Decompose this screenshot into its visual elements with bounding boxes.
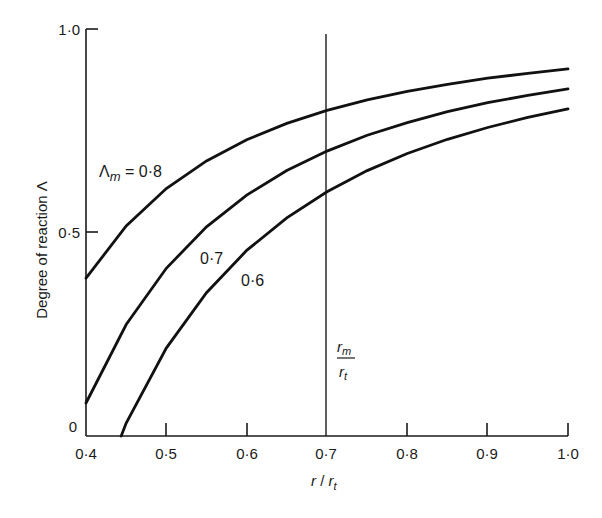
reference-label: rm rt	[337, 338, 355, 382]
y-tick-label-0-5: 0·5	[58, 224, 80, 241]
x-axis-label: r / rt	[311, 472, 338, 492]
curve-label-0-6: 0·6	[241, 272, 264, 289]
reaction-chart: 1·0 0·5 0 0·4 0·5 0·6 0·7 0·8 0·9 1·0 r …	[0, 0, 602, 518]
y-tick-label-1-0: 1·0	[58, 21, 80, 38]
x-tick-label-0-5: 0·5	[155, 445, 177, 462]
x-label-slash: /	[316, 472, 329, 489]
curve-lambda-m-0-7	[86, 89, 568, 403]
curves	[86, 69, 568, 436]
ref-numerator: rm	[337, 338, 351, 357]
x-tick-label-0-6: 0·6	[236, 445, 258, 462]
x-tick-label-0-7: 0·7	[315, 445, 337, 462]
ref-denominator: rt	[339, 363, 348, 382]
x-tick-label-0-9: 0·9	[476, 445, 498, 462]
curve-label-0-7: 0·7	[200, 250, 223, 267]
x-label-rt-sub: t	[334, 480, 338, 492]
curve-lambda-m-0-6	[121, 109, 568, 436]
axes	[86, 29, 568, 436]
y-tick-label-0: 0	[69, 418, 77, 435]
x-tick-label-1-0: 1·0	[557, 445, 579, 462]
y-axis-label: Degree of reaction Λ	[33, 181, 50, 319]
x-tick-label-0-4: 0·4	[75, 445, 97, 462]
curve-label-0-8: Λm = 0·8	[99, 163, 162, 184]
x-tick-label-0-8: 0·8	[396, 445, 418, 462]
